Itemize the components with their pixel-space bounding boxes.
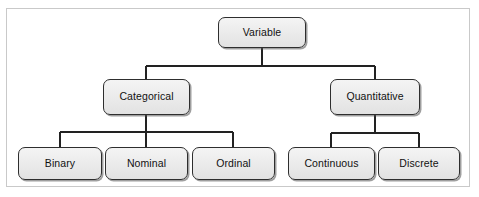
node-nominal-label: Nominal <box>127 158 166 170</box>
node-discrete[interactable]: Discrete <box>378 147 460 180</box>
node-binary-label: Binary <box>45 158 75 170</box>
node-ordinal[interactable]: Ordinal <box>192 147 275 180</box>
node-nominal[interactable]: Nominal <box>105 147 188 180</box>
node-discrete-label: Discrete <box>399 158 438 170</box>
node-ordinal-label: Ordinal <box>216 158 251 170</box>
diagram-canvas: Variable Categorical Quantitative Binary… <box>0 0 479 197</box>
node-variable[interactable]: Variable <box>218 17 306 48</box>
node-continuous-label: Continuous <box>304 158 358 170</box>
node-categorical-label: Categorical <box>119 91 173 103</box>
node-variable-label: Variable <box>243 27 282 39</box>
node-binary[interactable]: Binary <box>18 147 102 180</box>
node-quantitative[interactable]: Quantitative <box>330 79 420 115</box>
node-categorical[interactable]: Categorical <box>103 79 190 115</box>
node-continuous[interactable]: Continuous <box>288 147 375 180</box>
node-quantitative-label: Quantitative <box>346 91 403 103</box>
